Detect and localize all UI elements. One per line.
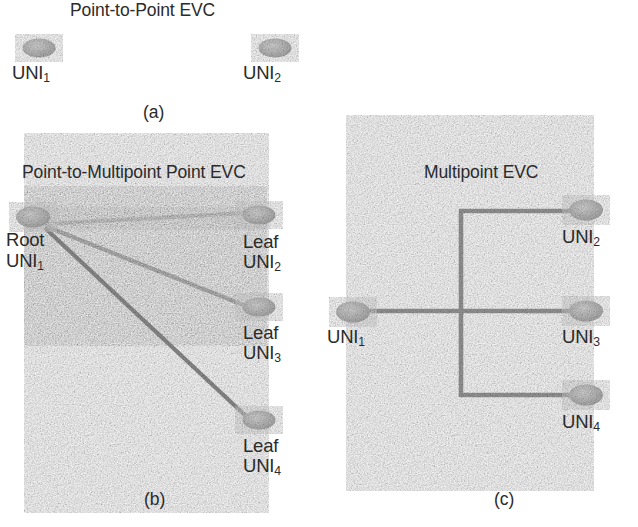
uni-text: UNI — [6, 250, 37, 271]
uni-subscript: 2 — [593, 235, 600, 249]
node-c-uni-2 — [569, 200, 603, 221]
uni-subscript: 4 — [593, 420, 600, 434]
uni-subscript: 1 — [43, 71, 50, 85]
node-uni-2 — [259, 39, 292, 58]
panel-b-caption: (b) — [144, 491, 165, 509]
uni-text: UNI — [243, 251, 274, 272]
uni-text: UNI — [562, 326, 593, 347]
panel-b-node-role-leaf-4: Leaf — [243, 437, 278, 456]
uni-subscript: 1 — [358, 335, 365, 349]
diagram-canvas — [0, 0, 638, 527]
panel-c-node-label-uni-4: UNI4 — [562, 413, 600, 434]
uni-text: UNI — [243, 342, 274, 363]
panel-b-node-label-uni-1: UNI1 — [6, 252, 44, 273]
uni-text: UNI — [562, 411, 593, 432]
uni-text: UNI — [243, 455, 274, 476]
panel-b-title: Point-to-Multipoint Point EVC — [22, 164, 246, 182]
panel-c-node-label-uni-2: UNI2 — [562, 228, 600, 249]
link-root-leaf3 — [45, 226, 246, 306]
uni-subscript: 2 — [274, 260, 281, 274]
node-c-uni-4 — [569, 385, 603, 406]
panel-b-node-role-leaf-2: Leaf — [243, 233, 278, 252]
uni-subscript: 3 — [274, 351, 281, 365]
node-c-uni-1 — [336, 302, 370, 323]
node-c-uni-3 — [569, 301, 603, 322]
panel-c-caption: (c) — [494, 491, 514, 509]
panel-b-node-label-uni-4: UNI4 — [243, 457, 281, 478]
node-leaf-uni-4 — [243, 411, 276, 430]
uni-text: UNI — [562, 226, 593, 247]
panel-a-node-label-uni-2: UNI2 — [243, 64, 281, 85]
evc-types-figure: Point-to-Point EVC UNI1 UNI2 (a) Point-t… — [0, 0, 638, 527]
node-leaf-uni-2 — [243, 206, 276, 225]
panel-b-node-role-root: Root — [6, 231, 44, 250]
uni-subscript: 3 — [593, 335, 600, 349]
link-root-leaf2 — [45, 213, 246, 224]
node-root-uni-1 — [16, 207, 50, 228]
panel-c-bus — [367, 209, 573, 397]
panel-b-node-label-uni-3: UNI3 — [243, 344, 281, 365]
link-root-leaf4 — [45, 228, 248, 418]
panel-a-node-label-uni-1: UNI1 — [12, 64, 50, 85]
uni-subscript: 4 — [274, 464, 281, 478]
panel-c-title: Multipoint EVC — [424, 164, 538, 182]
node-leaf-uni-3 — [243, 298, 276, 317]
panel-b-links — [45, 213, 248, 418]
panel-a-caption: (a) — [143, 104, 164, 122]
panel-a-title: Point-to-Point EVC — [70, 2, 215, 20]
uni-subscript: 1 — [37, 259, 44, 273]
panel-b-node-role-leaf-3: Leaf — [243, 324, 278, 343]
uni-text: UNI — [243, 62, 274, 83]
panel-c-node-label-uni-3: UNI3 — [562, 328, 600, 349]
node-uni-1 — [23, 39, 56, 58]
uni-text: UNI — [327, 326, 358, 347]
panel-c-node-label-uni-1: UNI1 — [327, 328, 365, 349]
uni-subscript: 2 — [274, 71, 281, 85]
panel-b-node-label-uni-2: UNI2 — [243, 253, 281, 274]
uni-text: UNI — [12, 62, 43, 83]
